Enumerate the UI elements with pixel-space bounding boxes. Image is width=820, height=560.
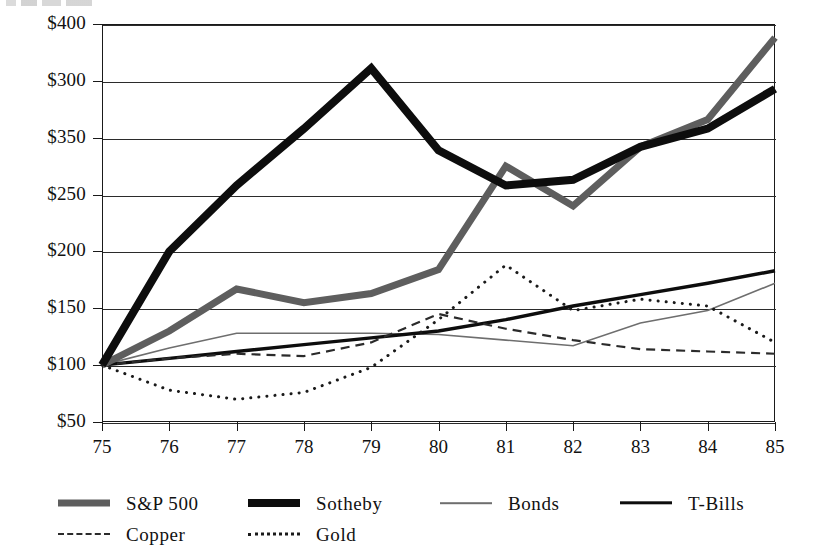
y-axis-tick-mark (93, 422, 102, 423)
x-axis-tick-mark (371, 422, 372, 431)
x-axis-tick-mark (506, 422, 507, 431)
gridline (103, 309, 776, 310)
x-axis-tick-mark (708, 422, 709, 431)
y-axis-tick-label: $200 (8, 240, 86, 259)
x-axis-tick-mark (775, 422, 776, 431)
legend-label: T-Bills (688, 494, 744, 513)
legend-label: Copper (126, 525, 186, 544)
y-axis-tick-label: $150 (8, 297, 86, 316)
y-axis-tick-label: $350 (8, 127, 86, 146)
x-axis-tick-label: 85 (755, 437, 795, 457)
legend-item-s-p-500[interactable]: S&P 500 (58, 488, 199, 518)
legend-label: Bonds (508, 494, 560, 513)
gridline (103, 252, 776, 253)
dashed-line-icon (58, 527, 110, 541)
x-axis-tick-label: 80 (419, 437, 459, 457)
thin-gray-line-icon (440, 496, 492, 510)
x-axis-tick-label: 77 (217, 437, 257, 457)
x-axis-tick-mark (237, 422, 238, 431)
thick-black-line-icon (248, 496, 300, 510)
x-axis-tick-mark (640, 422, 641, 431)
legend-row-0: S&P 500SothebyBondsT-Bills (58, 488, 798, 518)
y-axis-tick-label: $300 (8, 70, 86, 89)
gridline (103, 423, 776, 424)
x-axis-tick-label: 76 (149, 437, 189, 457)
legend-item-bonds[interactable]: Bonds (440, 488, 560, 518)
medium-black-line-icon (620, 496, 672, 510)
x-axis-tick-label: 81 (486, 437, 526, 457)
x-axis-tick-mark (169, 422, 170, 431)
x-axis-tick-label: 75 (82, 437, 122, 457)
legend-label: S&P 500 (126, 494, 199, 513)
thick-gray-line-icon (58, 496, 110, 510)
legend-item-t-bills[interactable]: T-Bills (620, 488, 744, 518)
dotted-line-icon (248, 527, 300, 541)
y-axis-tick-mark (93, 81, 102, 82)
gridline (103, 196, 776, 197)
scan-artifact (6, 0, 92, 6)
gridline (103, 139, 776, 140)
y-axis-tick-label: $50 (8, 411, 86, 430)
y-axis-tick-mark (93, 138, 102, 139)
x-axis-tick-label: 82 (553, 437, 593, 457)
gridline (103, 366, 776, 367)
y-axis-tick-mark (93, 195, 102, 196)
x-axis-tick-label: 78 (284, 437, 324, 457)
legend-row-1: CopperGold (58, 519, 798, 549)
x-axis-tick-mark (439, 422, 440, 431)
y-axis-tick-label: $250 (8, 184, 86, 203)
chart-figure: $400$300$350$250$200$150$100$50 75767778… (0, 0, 820, 560)
y-axis-tick-mark (93, 24, 102, 25)
x-axis-tick-mark (573, 422, 574, 431)
legend-item-sotheby[interactable]: Sotheby (248, 488, 382, 518)
legend-label: Gold (316, 525, 356, 544)
chart-legend: S&P 500SothebyBondsT-Bills CopperGold (58, 488, 798, 550)
y-axis-tick-mark (93, 365, 102, 366)
y-axis-tick-mark (93, 251, 102, 252)
legend-item-gold[interactable]: Gold (248, 519, 356, 549)
gridline (103, 82, 776, 83)
gridline (103, 25, 776, 26)
x-axis-tick-mark (304, 422, 305, 431)
y-axis-tick-label: $400 (8, 13, 86, 32)
x-axis-tick-label: 84 (688, 437, 728, 457)
legend-label: Sotheby (316, 494, 382, 513)
legend-item-copper[interactable]: Copper (58, 519, 186, 549)
x-axis-tick-label: 79 (351, 437, 391, 457)
x-axis-tick-label: 83 (620, 437, 660, 457)
plot-area (102, 24, 775, 422)
y-axis-tick-mark (93, 308, 102, 309)
y-axis-tick-label: $100 (8, 354, 86, 373)
x-axis-tick-mark (102, 422, 103, 431)
